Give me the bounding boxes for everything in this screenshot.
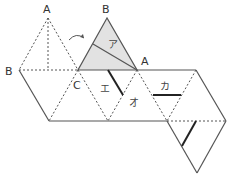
label-face-e: エ xyxy=(100,83,110,94)
thick-segments xyxy=(108,70,196,146)
label-face-ka: カ xyxy=(160,81,170,92)
label-b-left: B xyxy=(5,65,13,78)
diagram: A B C B A ア エ オ カ xyxy=(0,0,233,179)
label-c: C xyxy=(73,79,81,92)
label-face-o: オ xyxy=(129,97,139,108)
label-face-a: ア xyxy=(108,39,118,50)
label-b-top: B xyxy=(102,3,110,16)
label-a-left: A xyxy=(43,3,51,16)
net-diagram: A B C B A ア エ オ カ xyxy=(0,0,233,179)
label-a-right: A xyxy=(141,55,149,68)
